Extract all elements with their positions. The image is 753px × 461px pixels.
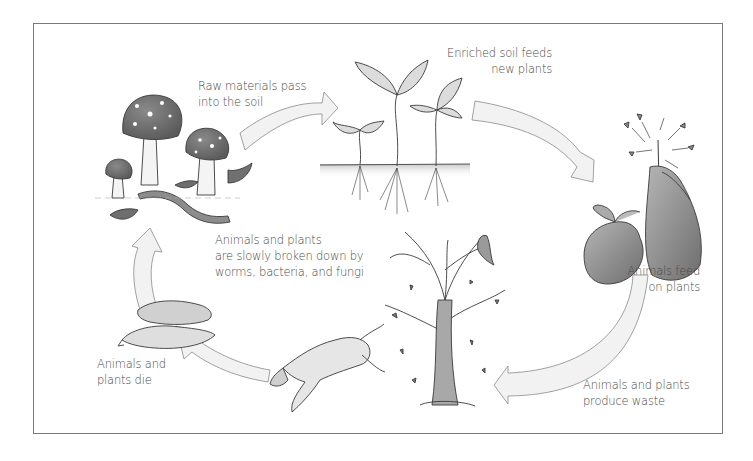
caption-line: produce waste xyxy=(583,393,689,409)
caption-line: into the soil xyxy=(198,94,306,110)
caption-animals-feed: Animals feed on plants xyxy=(610,263,700,295)
dead-bird-illustration xyxy=(118,301,215,349)
caption-raw-materials: Raw materials pass into the soil xyxy=(198,78,306,110)
caption-line: Animals and plants xyxy=(583,377,689,393)
caption-line: Animals and plants xyxy=(215,232,364,248)
caption-new-plants: Enriched soil feeds new plants xyxy=(440,45,552,77)
seedlings-illustration xyxy=(320,60,470,214)
caption-waste: Animals and plants produce waste xyxy=(583,377,689,409)
caption-line: plants die xyxy=(97,372,166,388)
caption-line: Enriched soil feeds xyxy=(440,45,552,61)
mushrooms-illustration xyxy=(95,95,252,223)
fox-illustration xyxy=(270,324,385,412)
caption-line: on plants xyxy=(610,279,700,295)
caption-decompose: Animals and plants are slowly broken dow… xyxy=(215,232,364,280)
rabbits-illustration xyxy=(584,114,701,284)
caption-line: are slowly broken down by xyxy=(215,248,364,264)
caption-die: Animals and plants die xyxy=(97,356,166,388)
arrow-to-decompose xyxy=(132,228,162,310)
caption-line: new plants xyxy=(440,61,552,77)
tree-illustration xyxy=(385,232,505,406)
caption-line: Animals and xyxy=(97,356,166,372)
arrow-to-animals xyxy=(472,101,594,182)
caption-line: Raw materials pass xyxy=(198,78,306,94)
caption-line: worms, bacteria, and fungi xyxy=(215,264,364,280)
caption-line: Animals feed xyxy=(610,263,700,279)
